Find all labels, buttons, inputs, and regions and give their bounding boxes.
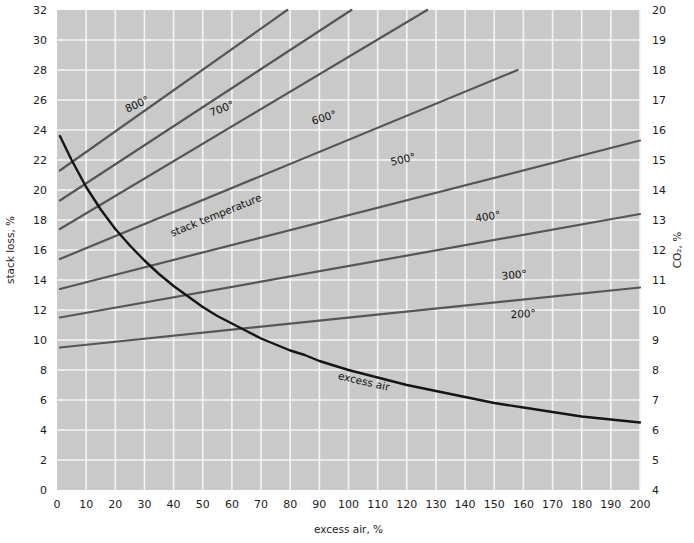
y-tick-label: 16 bbox=[33, 244, 47, 257]
y-tick-label: 10 bbox=[33, 334, 47, 347]
x-tick-label: 80 bbox=[283, 498, 297, 511]
y-tick-label: 28 bbox=[33, 64, 47, 77]
y-tick-label: 14 bbox=[33, 274, 47, 287]
grid-lines bbox=[57, 10, 640, 490]
x-tick-label: 70 bbox=[254, 498, 268, 511]
series-label-200deg: 200° bbox=[510, 307, 536, 320]
y2-tick-label: 17 bbox=[652, 94, 666, 107]
stack-loss-chart: 0102030405060708090100110120130140150160… bbox=[0, 0, 694, 543]
y-tick-label: 20 bbox=[33, 184, 47, 197]
x-tick-label: 10 bbox=[79, 498, 93, 511]
x-tick-label: 130 bbox=[425, 498, 446, 511]
y2-tick-label: 10 bbox=[652, 304, 666, 317]
y2-tick-label: 18 bbox=[652, 64, 666, 77]
y-tick-label: 18 bbox=[33, 214, 47, 227]
x-tick-label: 0 bbox=[54, 498, 61, 511]
y2-tick-label: 20 bbox=[652, 4, 666, 17]
y2-tick-label: 4 bbox=[652, 484, 659, 497]
x-tick-label: 90 bbox=[312, 498, 326, 511]
x-tick-label: 200 bbox=[630, 498, 651, 511]
y2-tick-label: 19 bbox=[652, 34, 666, 47]
x-tick-label: 20 bbox=[108, 498, 122, 511]
y-tick-label: 8 bbox=[40, 364, 47, 377]
x-tick-label: 100 bbox=[338, 498, 359, 511]
y-tick-label: 0 bbox=[40, 484, 47, 497]
y-tick-label: 26 bbox=[33, 94, 47, 107]
x-tick-label: 120 bbox=[396, 498, 417, 511]
y2-axis-title: CO₂, % bbox=[671, 232, 683, 268]
y2-tick-label: 11 bbox=[652, 274, 666, 287]
x-tick-label: 170 bbox=[542, 498, 563, 511]
chart-canvas: 0102030405060708090100110120130140150160… bbox=[0, 0, 694, 543]
y-tick-label: 6 bbox=[40, 394, 47, 407]
y-tick-label: 4 bbox=[40, 424, 47, 437]
x-tick-label: 30 bbox=[137, 498, 151, 511]
y2-tick-label: 6 bbox=[652, 424, 659, 437]
y2-axis-tick-labels: 4567891011121314151617181920 bbox=[652, 4, 666, 497]
y-tick-label: 32 bbox=[33, 4, 47, 17]
y-axis-tick-labels: 02468101214161820222426283032 bbox=[33, 4, 47, 497]
x-tick-label: 110 bbox=[367, 498, 388, 511]
x-tick-label: 140 bbox=[455, 498, 476, 511]
x-tick-label: 150 bbox=[484, 498, 505, 511]
y-tick-label: 22 bbox=[33, 154, 47, 167]
y2-tick-label: 7 bbox=[652, 394, 659, 407]
x-tick-label: 40 bbox=[167, 498, 181, 511]
y-tick-label: 12 bbox=[33, 304, 47, 317]
y-tick-label: 24 bbox=[33, 124, 47, 137]
y-tick-label: 2 bbox=[40, 454, 47, 467]
x-tick-label: 160 bbox=[513, 498, 534, 511]
y2-tick-label: 9 bbox=[652, 334, 659, 347]
y2-tick-label: 12 bbox=[652, 244, 666, 257]
x-axis-title: excess air, % bbox=[314, 523, 383, 535]
x-tick-label: 60 bbox=[225, 498, 239, 511]
y-tick-label: 30 bbox=[33, 34, 47, 47]
x-axis-tick-labels: 0102030405060708090100110120130140150160… bbox=[54, 498, 651, 511]
y2-tick-label: 5 bbox=[652, 454, 659, 467]
x-tick-label: 180 bbox=[571, 498, 592, 511]
y2-tick-label: 15 bbox=[652, 154, 666, 167]
x-tick-label: 50 bbox=[196, 498, 210, 511]
y2-tick-label: 16 bbox=[652, 124, 666, 137]
y-axis-title: stack loss, % bbox=[4, 216, 16, 284]
y2-tick-label: 8 bbox=[652, 364, 659, 377]
y2-tick-label: 14 bbox=[652, 184, 666, 197]
y2-tick-label: 13 bbox=[652, 214, 666, 227]
x-tick-label: 190 bbox=[600, 498, 621, 511]
